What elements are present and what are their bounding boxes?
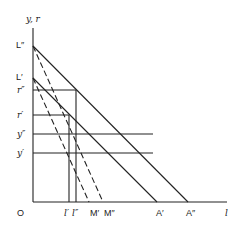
x-axis-label: l [225,209,228,218]
label-l1: l′ [64,209,69,218]
label-y2: y″ [17,130,25,139]
diagram-canvas [0,0,242,227]
economic-diagram: y, r L″ L′ r″ r′ y″ y′ O l′ l″ M′ M″ A′ … [0,0,242,227]
label-L1: L′ [16,73,23,82]
label-r1: r′ [17,111,23,120]
line-L2-A2 [33,46,188,202]
label-l2: l″ [72,209,78,218]
label-r2: r″ [17,86,25,95]
dashed-line-L1-M1 [33,78,89,202]
label-A2: A″ [186,209,195,218]
label-y1: y′ [17,149,24,158]
label-M2: M″ [104,209,115,218]
dashed-line-L2-M2 [33,46,103,202]
line-L1-A1 [33,78,157,202]
y-axis-label: y, r [26,15,40,24]
label-A1: A′ [156,209,164,218]
label-L2: L″ [16,41,24,50]
label-M1: M′ [90,209,99,218]
origin-label: O [17,209,24,218]
